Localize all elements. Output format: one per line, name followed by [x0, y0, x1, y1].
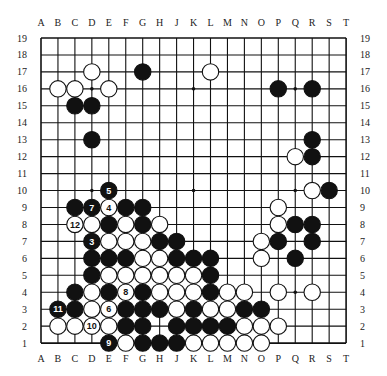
black-stone — [118, 301, 134, 317]
row-label: 4 — [22, 287, 27, 298]
row-label: 17 — [360, 66, 370, 77]
black-stone — [304, 81, 320, 97]
white-stone — [219, 284, 235, 300]
row-label: 5 — [360, 270, 365, 281]
white-stone — [67, 81, 83, 97]
white-stone — [135, 267, 151, 283]
row-label: 1 — [360, 338, 365, 349]
black-stone — [118, 318, 134, 334]
column-label: E — [106, 17, 112, 28]
row-label: 16 — [360, 83, 370, 94]
star-point — [90, 189, 94, 193]
column-label: D — [88, 353, 95, 364]
column-label: O — [258, 353, 265, 364]
row-label: 11 — [360, 168, 370, 179]
white-stone — [84, 301, 100, 317]
white-stone — [84, 64, 100, 80]
move-number: 6 — [106, 304, 111, 314]
column-label: P — [276, 353, 282, 364]
row-label: 15 — [360, 100, 370, 111]
column-label: K — [190, 17, 198, 28]
black-stone — [67, 199, 83, 215]
black-stone — [67, 301, 83, 317]
row-label: 8 — [360, 219, 365, 230]
black-stone — [202, 284, 218, 300]
row-label: 17 — [17, 66, 27, 77]
column-label: F — [123, 353, 129, 364]
column-label: L — [207, 353, 213, 364]
white-stone — [202, 301, 218, 317]
black-stone — [118, 250, 134, 266]
row-label: 8 — [22, 219, 27, 230]
row-label: 14 — [17, 117, 27, 128]
row-label: 18 — [17, 49, 27, 60]
black-stone — [135, 216, 151, 232]
white-stone — [118, 335, 134, 351]
white-stone — [135, 233, 151, 249]
column-label: T — [343, 17, 349, 28]
white-stone — [236, 284, 252, 300]
column-label: C — [72, 353, 79, 364]
black-stone — [168, 233, 184, 249]
move-number: 12 — [70, 220, 80, 230]
column-label: H — [156, 353, 163, 364]
white-stone — [84, 284, 100, 300]
black-stone — [202, 318, 218, 334]
move-number: 4 — [106, 203, 111, 213]
row-label: 3 — [22, 304, 27, 315]
column-label: G — [139, 353, 146, 364]
white-stone — [185, 267, 201, 283]
black-stone — [168, 318, 184, 334]
star-point — [293, 87, 297, 91]
white-stone — [151, 267, 167, 283]
column-label: A — [37, 353, 45, 364]
black-stone — [135, 284, 151, 300]
black-stone — [304, 233, 320, 249]
black-stone — [135, 318, 151, 334]
column-label: M — [223, 353, 232, 364]
black-stone — [168, 335, 184, 351]
white-stone — [168, 267, 184, 283]
star-point — [192, 87, 196, 91]
white-stone — [151, 216, 167, 232]
column-label: C — [72, 17, 79, 28]
white-stone — [168, 284, 184, 300]
column-label: Q — [292, 17, 300, 28]
white-stone — [219, 301, 235, 317]
column-label: R — [309, 353, 316, 364]
black-stone — [253, 301, 269, 317]
white-stone — [151, 250, 167, 266]
column-label: N — [241, 17, 248, 28]
column-label: J — [175, 17, 179, 28]
row-label: 7 — [360, 236, 365, 247]
black-stone — [151, 301, 167, 317]
row-label: 1 — [22, 338, 27, 349]
column-label: O — [258, 17, 265, 28]
white-stone — [118, 267, 134, 283]
white-stone — [118, 233, 134, 249]
row-label: 12 — [360, 151, 370, 162]
row-label: 2 — [360, 321, 365, 332]
black-stone — [135, 64, 151, 80]
black-stone — [304, 216, 320, 232]
row-label: 4 — [360, 287, 365, 298]
column-label: A — [37, 17, 45, 28]
star-point — [293, 189, 297, 193]
move-number: 3 — [89, 237, 94, 247]
black-stone — [67, 98, 83, 114]
column-label: T — [343, 353, 349, 364]
black-stone — [84, 250, 100, 266]
white-stone — [270, 216, 286, 232]
white-stone — [253, 335, 269, 351]
row-label: 18 — [360, 49, 370, 60]
row-label: 13 — [360, 134, 370, 145]
row-label: 10 — [17, 185, 27, 196]
white-stone — [270, 284, 286, 300]
move-number: 8 — [123, 287, 128, 297]
black-stone — [185, 318, 201, 334]
column-label: K — [190, 353, 198, 364]
row-label: 13 — [17, 134, 27, 145]
white-stone — [118, 216, 134, 232]
move-number: 11 — [53, 304, 63, 314]
white-stone — [135, 250, 151, 266]
